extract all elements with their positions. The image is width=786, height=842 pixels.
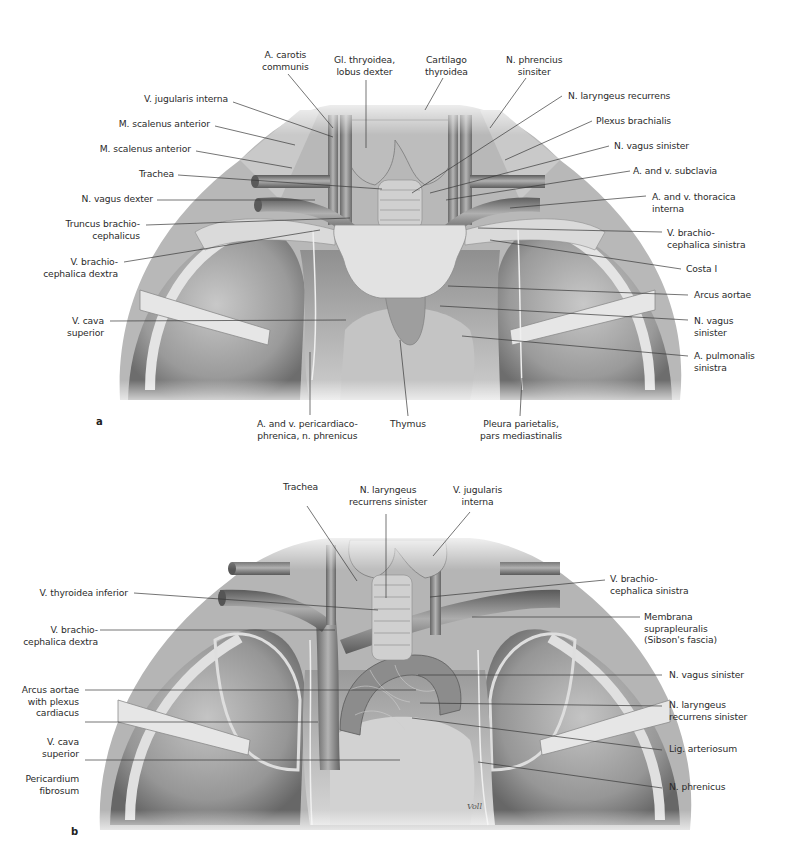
label-v-brachiocephalica-sinistra-a: V. brachio- cephalica sinistra [667, 227, 745, 250]
label-m-scalenus-anterior-1: M. scalenus anterior [119, 118, 210, 130]
label-a-v-subclavia: A. and v. subclavia [633, 165, 717, 177]
artist-signature: Voll [467, 802, 482, 811]
label-v-jugularis-interna: V. jugularis interna [144, 93, 228, 105]
label-trachea-b: Trachea [283, 481, 318, 493]
label-v-brachiocephalica-sinistra-b: V. brachio- cephalica sinistra [610, 573, 688, 596]
label-a-carotis-communis: A. carotis communis [262, 49, 309, 72]
label-pleura-parietalis: Pleura parietalis, pars mediastinalis [480, 418, 562, 441]
label-plexus-brachialis: Plexus brachialis [596, 115, 671, 127]
label-cartilago-thyroidea: Cartilago thyroidea [425, 54, 468, 77]
label-a-v-thoracica-interna: A. and v. thoracica interna [652, 191, 736, 214]
label-a-pulmonalis-sinistra: A. pulmonalis sinistra [694, 350, 755, 373]
label-membrana-suprapleuralis: Membrana suprapleuralis (Sibson's fascia… [644, 611, 717, 646]
label-thymus: Thymus [390, 418, 426, 430]
label-n-phrenicus-sinister: N. phrencius sinsiter [506, 54, 562, 77]
label-v-thyroidea-inferior: V. thyroidea inferior [40, 587, 128, 599]
label-gl-thyroidea: Gl. thryoidea, lobus dexter [334, 54, 395, 77]
label-v-jugularis-interna-b: V. jugularis interna [453, 484, 502, 507]
label-costa-i: Costa I [686, 263, 717, 275]
label-v-brachiocephalica-dextra-b: V. brachio- cephalica dextra [23, 624, 98, 647]
label-v-cava-superior-b: V. cava superior [42, 736, 79, 759]
figure-b: Trachea N. laryngeus recurrens sinister … [0, 440, 786, 842]
label-n-laryngeus-recurrens-sinister-b: N. laryngeus recurrens sinister [669, 699, 747, 722]
figure-a: A. carotis communis Gl. thryoidea, lobus… [0, 0, 786, 440]
panel-letter-a: a [96, 416, 103, 427]
label-v-cava-superior-a: V. cava superior [67, 315, 104, 338]
label-pericardium-fibrosum: Pericardium fibrosum [25, 773, 79, 796]
label-n-laryngeus-recurrens: N. laryngeus recurrens [568, 90, 670, 102]
label-n-vagus-sinister-a: N. vagus sinister [694, 315, 733, 338]
label-n-vagus-sinister-b: N. vagus sinister [669, 669, 744, 681]
label-n-vagus-sinister-top: N. vagus sinister [614, 140, 689, 152]
label-m-scalenus-anterior-2: M. scalenus anterior [100, 143, 191, 155]
label-pericardiacophrenica: A. and v. pericardiaco- phrenica, n. phr… [257, 418, 358, 441]
label-n-laryngeus-recurrens-sinister-top: N. laryngeus recurrens sinister [349, 484, 427, 507]
label-arcus-aortae-plexus: Arcus aortae with plexus cardiacus [22, 684, 79, 719]
label-n-vagus-dexter: N. vagus dexter [82, 193, 153, 205]
label-trachea-a: Trachea [139, 168, 174, 180]
label-lig-arteriosum: Lig. arteriosum [669, 743, 737, 755]
panel-letter-b: b [71, 826, 78, 837]
label-truncus-brachiocephalicus: Truncus brachio- cephalicus [66, 218, 140, 241]
label-arcus-aortae-a: Arcus aortae [694, 289, 751, 301]
label-n-phrenicus-b: N. phrenicus [669, 781, 725, 793]
label-v-brachiocephalica-dextra-a: V. brachio- cephalica dextra [43, 256, 118, 279]
